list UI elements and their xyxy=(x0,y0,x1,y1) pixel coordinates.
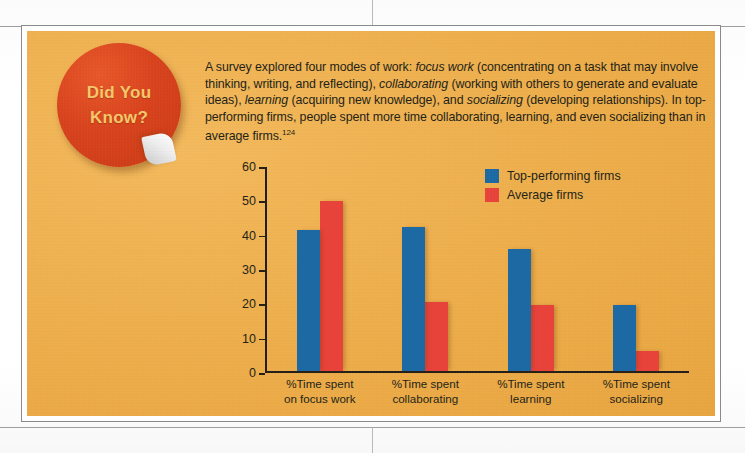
y-tick-label: 10 xyxy=(242,332,256,346)
chart-plot-area: 0102030405060 xyxy=(265,167,689,373)
x-axis-label-line: %Time spent xyxy=(478,377,584,392)
y-tick-mark xyxy=(259,373,265,375)
bar[interactable] xyxy=(402,227,425,372)
sticker-line-2: Know? xyxy=(90,108,148,128)
x-axis-label: %Time spentcollaborating xyxy=(373,377,479,416)
callout-paragraph: A survey explored four modes of work: fo… xyxy=(205,59,707,144)
sticker-line-1: Did You xyxy=(87,83,152,103)
x-axis-label-line: %Time spent xyxy=(267,377,373,392)
did-you-know-sticker: Did You Know? xyxy=(57,43,181,167)
x-axis-label: %Time spentlearning xyxy=(478,377,584,416)
callout-inner-panel: Did You Know? A survey explored four mod… xyxy=(27,31,715,416)
paragraph-text-4: (acquiring new knowledge), and xyxy=(288,93,467,107)
y-tick-mark xyxy=(259,339,265,341)
x-axis-label-line: %Time spent xyxy=(373,377,479,392)
bar-chart: Top-performing firmsAverage firms 010203… xyxy=(217,159,697,416)
bar-group xyxy=(478,167,584,371)
bar-group xyxy=(373,167,479,371)
x-axis-labels: %Time spenton focus work%Time spentcolla… xyxy=(267,377,689,416)
y-tick-label: 60 xyxy=(242,160,256,174)
x-axis-label-line: %Time spent xyxy=(584,377,690,392)
bar[interactable] xyxy=(531,305,554,371)
x-axis-label-line: socializing xyxy=(584,392,690,407)
paragraph-text-1: A survey explored four modes of work: xyxy=(205,60,415,74)
y-tick-mark xyxy=(259,201,265,203)
bar[interactable] xyxy=(636,351,659,371)
term-collaborating: collaborating xyxy=(379,77,448,91)
bar[interactable] xyxy=(425,302,448,371)
did-you-know-callout: Did You Know? A survey explored four mod… xyxy=(21,25,721,422)
y-tick-label: 50 xyxy=(242,194,256,208)
x-axis-label: %Time spenton focus work xyxy=(267,377,373,416)
term-focus-work: focus work xyxy=(415,60,473,74)
bar[interactable] xyxy=(508,249,531,371)
x-axis-label: %Time spentsocializing xyxy=(584,377,690,416)
y-tick-label: 30 xyxy=(242,263,256,277)
cropped-header-text xyxy=(398,0,743,8)
x-axis-label-line: learning xyxy=(478,392,584,407)
y-tick-label: 40 xyxy=(242,229,256,243)
bar-group xyxy=(584,167,690,371)
bar[interactable] xyxy=(320,201,343,371)
term-socializing: socializing xyxy=(467,93,523,107)
footnote-marker: 124 xyxy=(282,128,295,137)
bar-group xyxy=(267,167,373,371)
y-tick-mark xyxy=(259,270,265,272)
y-tick-mark xyxy=(259,236,265,238)
chart-bars xyxy=(267,167,689,371)
term-learning: learning xyxy=(245,93,288,107)
x-axis-label-line: collaborating xyxy=(373,392,479,407)
x-axis-line xyxy=(265,371,689,373)
y-tick-label: 20 xyxy=(242,297,256,311)
bar[interactable] xyxy=(297,230,320,371)
column-divider-bottom xyxy=(372,427,373,453)
bar[interactable] xyxy=(613,305,636,371)
x-axis-label-line: on focus work xyxy=(267,392,373,407)
y-tick-mark xyxy=(259,304,265,306)
y-tick-label: 0 xyxy=(249,366,256,380)
column-divider-top xyxy=(372,0,373,26)
y-tick-mark xyxy=(259,167,265,169)
